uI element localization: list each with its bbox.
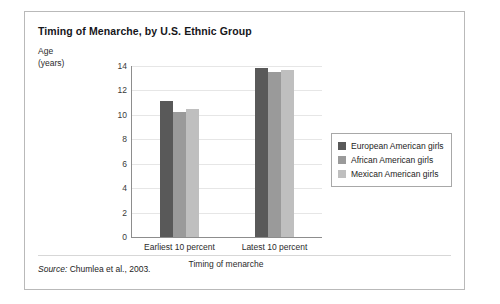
legend-item: Mexican American girls — [338, 167, 444, 181]
y-axis-tick-label: 0 — [122, 232, 127, 242]
y-axis-title-line1: Age — [38, 46, 64, 58]
bar — [173, 112, 186, 237]
legend-label: Mexican American girls — [351, 169, 438, 179]
plot-area: 02468101214Earliest 10 percentLatest 10 … — [131, 66, 322, 238]
y-axis-tick-label: 4 — [122, 183, 127, 193]
legend-item: European American girls — [338, 139, 444, 153]
legend-swatch — [338, 156, 346, 164]
x-axis-tick-label: Earliest 10 percent — [144, 242, 215, 252]
y-axis-tick-label: 10 — [118, 110, 127, 120]
source-label: Source: — [38, 264, 67, 274]
legend-label: European American girls — [351, 141, 444, 151]
y-axis-tick-label: 14 — [118, 61, 127, 71]
page-title: Timing of Menarche, by U.S. Ethnic Group — [38, 25, 252, 37]
legend-swatch — [338, 142, 346, 150]
y-axis-tick-label: 12 — [118, 85, 127, 95]
chart-legend: European American girlsAfrican American … — [331, 133, 452, 187]
y-axis-title: Age (years) — [38, 46, 64, 69]
source-divider — [38, 255, 451, 256]
x-axis-tick-label: Latest 10 percent — [242, 242, 308, 252]
bar — [268, 72, 281, 238]
y-axis-tick-label: 6 — [122, 159, 127, 169]
bar — [255, 68, 268, 237]
legend-label: African American girls — [351, 155, 433, 165]
legend-item: African American girls — [338, 153, 444, 167]
y-axis-tick-label: 8 — [122, 134, 127, 144]
bar-group: Latest 10 percent — [255, 66, 294, 237]
x-axis-title: Timing of menarche — [131, 259, 321, 269]
legend-swatch — [338, 170, 346, 178]
y-axis-tick-label: 2 — [122, 208, 127, 218]
figure-panel: Timing of Menarche, by U.S. Ethnic Group… — [24, 11, 465, 290]
bar — [160, 101, 173, 237]
y-axis-title-line2: (years) — [38, 58, 64, 70]
source-note: Source: Chumlea et al., 2003. — [38, 264, 150, 274]
source-citation: Chumlea et al., 2003. — [70, 264, 151, 274]
bar — [281, 70, 294, 237]
bar-group: Earliest 10 percent — [160, 66, 199, 237]
bar — [186, 109, 199, 237]
